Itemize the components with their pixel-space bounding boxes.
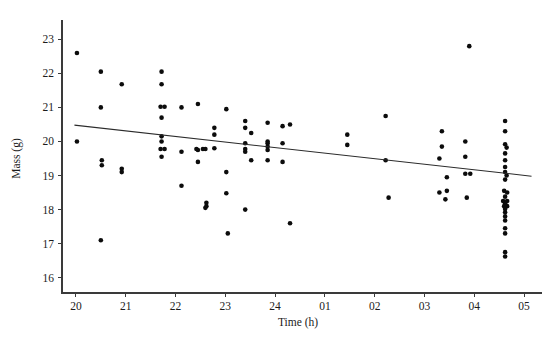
data-point bbox=[249, 131, 254, 136]
axis-spines bbox=[62, 20, 542, 293]
data-point bbox=[503, 254, 508, 259]
data-point bbox=[158, 147, 163, 152]
x-tick-label: 04 bbox=[469, 300, 481, 312]
data-point bbox=[280, 141, 285, 146]
data-point bbox=[386, 195, 391, 200]
data-point bbox=[265, 120, 270, 125]
y-tick-label: 20 bbox=[43, 135, 55, 147]
data-point bbox=[265, 148, 270, 153]
data-point bbox=[280, 124, 285, 129]
data-point bbox=[468, 172, 473, 177]
data-point bbox=[224, 191, 229, 196]
data-point bbox=[179, 183, 184, 188]
y-tick-label: 17 bbox=[43, 238, 55, 250]
data-point bbox=[503, 210, 508, 215]
data-point bbox=[265, 158, 270, 163]
data-point bbox=[162, 147, 167, 152]
data-point bbox=[179, 105, 184, 110]
data-points-group bbox=[75, 44, 510, 259]
data-point bbox=[503, 165, 508, 170]
data-point bbox=[503, 214, 508, 219]
data-point bbox=[203, 206, 208, 211]
data-point bbox=[196, 102, 201, 107]
data-point bbox=[503, 177, 508, 182]
data-point bbox=[196, 160, 201, 165]
data-point bbox=[99, 238, 104, 243]
data-point bbox=[212, 132, 217, 137]
data-point bbox=[159, 115, 164, 120]
data-point bbox=[100, 158, 105, 163]
data-point bbox=[212, 126, 217, 131]
data-point bbox=[99, 69, 104, 74]
data-point bbox=[243, 149, 248, 154]
y-tick-label: 19 bbox=[43, 170, 55, 182]
data-point bbox=[100, 163, 105, 168]
data-point bbox=[212, 146, 217, 151]
data-point bbox=[440, 144, 445, 149]
data-point bbox=[119, 82, 124, 87]
data-point bbox=[463, 139, 468, 144]
data-point bbox=[463, 155, 468, 160]
data-point bbox=[504, 145, 509, 150]
regression-trend-line bbox=[74, 125, 531, 176]
data-point bbox=[503, 231, 508, 236]
data-point bbox=[503, 129, 508, 134]
data-point bbox=[224, 170, 229, 175]
y-tick-label: 21 bbox=[43, 101, 55, 113]
x-tick-label: 01 bbox=[319, 300, 331, 312]
data-point bbox=[463, 172, 468, 177]
data-point bbox=[159, 155, 164, 160]
data-point bbox=[443, 197, 448, 202]
x-tick-label: 24 bbox=[269, 300, 281, 312]
data-point bbox=[440, 129, 445, 134]
data-point bbox=[179, 149, 184, 154]
data-point bbox=[243, 207, 248, 212]
x-tick-label: 23 bbox=[220, 300, 232, 312]
data-point bbox=[280, 160, 285, 165]
data-point bbox=[345, 132, 350, 137]
data-point bbox=[119, 170, 124, 175]
x-tick-label: 03 bbox=[419, 300, 431, 312]
y-axis-title: Mass (g) bbox=[10, 138, 23, 179]
data-point bbox=[464, 195, 469, 200]
data-point bbox=[437, 190, 442, 195]
data-point bbox=[162, 104, 167, 109]
data-point bbox=[75, 51, 80, 56]
x-tick-label: 02 bbox=[369, 300, 381, 312]
data-point bbox=[437, 156, 442, 161]
x-axis-title: Time (h) bbox=[278, 316, 318, 329]
data-point bbox=[243, 126, 248, 131]
scatter-plot-figure: 161718192021222320212223240102030405Time… bbox=[0, 0, 551, 337]
data-point bbox=[99, 105, 104, 110]
data-point bbox=[345, 143, 350, 148]
data-point bbox=[158, 104, 163, 109]
data-point bbox=[467, 44, 472, 49]
data-point bbox=[503, 226, 508, 231]
data-point bbox=[445, 175, 450, 180]
scatter-plot-canvas: 161718192021222320212223240102030405Time… bbox=[0, 0, 551, 337]
data-point bbox=[203, 147, 208, 152]
data-point bbox=[159, 82, 164, 87]
data-point bbox=[224, 107, 229, 112]
data-point bbox=[503, 250, 508, 255]
y-tick-label: 22 bbox=[43, 67, 55, 79]
data-point bbox=[159, 69, 164, 74]
x-tick-label: 21 bbox=[120, 300, 132, 312]
data-point bbox=[503, 151, 508, 156]
y-tick-label: 18 bbox=[43, 204, 55, 216]
y-tick-label: 23 bbox=[43, 33, 55, 45]
data-point bbox=[503, 194, 508, 199]
data-point bbox=[503, 218, 508, 223]
y-tick-label: 16 bbox=[43, 272, 55, 284]
x-tick-label: 22 bbox=[170, 300, 182, 312]
data-point bbox=[249, 158, 254, 163]
x-tick-label: 20 bbox=[70, 300, 82, 312]
data-point bbox=[505, 190, 510, 195]
data-point bbox=[503, 119, 508, 124]
data-point bbox=[159, 139, 164, 144]
data-point bbox=[503, 158, 508, 163]
data-point bbox=[445, 189, 450, 194]
data-point bbox=[383, 114, 388, 119]
data-point bbox=[288, 221, 293, 226]
x-tick-label: 05 bbox=[518, 300, 530, 312]
